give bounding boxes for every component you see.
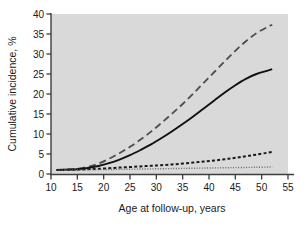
- x-axis-title: Age at follow-up, years: [119, 202, 226, 214]
- x-tick-label: 45: [230, 182, 242, 193]
- y-tick-label: 20: [33, 89, 45, 100]
- x-tick-label: 15: [72, 182, 84, 193]
- x-tick-label: 20: [98, 182, 110, 193]
- y-tick-label: 35: [33, 29, 45, 40]
- chart-canvas: 0510152025303540 10152025303540455055 Ag…: [0, 0, 306, 228]
- x-tick-label: 35: [177, 182, 189, 193]
- x-tick-label: 25: [124, 182, 136, 193]
- figure-container: 0510152025303540 10152025303540455055 Ag…: [0, 0, 306, 228]
- y-tick-label: 15: [33, 109, 45, 120]
- y-tick-label: 30: [33, 49, 45, 60]
- x-tick-label: 50: [256, 182, 268, 193]
- x-tick-label: 40: [203, 182, 215, 193]
- plot-area-background: [51, 14, 288, 174]
- y-axis-title: Cumulative incidence, %: [6, 37, 18, 152]
- y-tick-label: 40: [33, 9, 45, 20]
- y-tick-label: 5: [38, 149, 44, 160]
- y-tick-label: 10: [33, 129, 45, 140]
- x-tick-label: 10: [45, 182, 57, 193]
- x-tick-label: 30: [151, 182, 163, 193]
- y-tick-label: 25: [33, 69, 45, 80]
- y-tick-label: 0: [38, 169, 44, 180]
- x-tick-label: 55: [282, 182, 294, 193]
